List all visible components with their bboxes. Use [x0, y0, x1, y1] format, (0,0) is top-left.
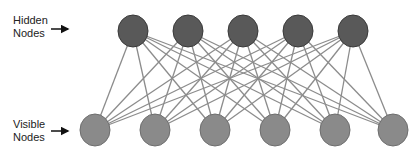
visible-node: [378, 114, 408, 146]
network-diagram: [0, 0, 420, 154]
visible-node: [80, 114, 110, 146]
edge: [95, 31, 298, 130]
visible-node: [200, 114, 230, 146]
hidden-node: [283, 15, 313, 47]
hidden-node: [173, 15, 203, 47]
hidden-node: [228, 15, 258, 47]
nodes: [80, 15, 408, 146]
hidden-node: [338, 15, 368, 47]
edge: [243, 31, 393, 130]
hidden-node: [118, 15, 148, 47]
visible-node: [320, 114, 350, 146]
visible-node: [260, 114, 290, 146]
visible-node: [140, 114, 170, 146]
